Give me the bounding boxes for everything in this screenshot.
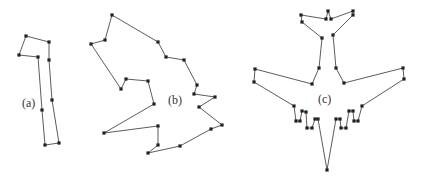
vertex-marker	[156, 124, 159, 127]
vertex-marker	[57, 141, 60, 144]
vertex-marker	[102, 131, 105, 134]
vertex-marker	[50, 98, 53, 101]
vertex-marker	[342, 81, 345, 84]
vertex-marker	[351, 9, 354, 12]
vertex-marker	[300, 20, 303, 23]
vertex-marker	[329, 17, 332, 20]
vertex-marker	[110, 13, 113, 16]
vertex-marker	[195, 83, 198, 86]
vertex-marker	[103, 38, 106, 41]
vertex-marker	[253, 67, 256, 70]
vertex-marker	[47, 58, 50, 61]
vertex-marker	[209, 127, 212, 130]
shape-a-label: (a)	[22, 96, 35, 110]
vertex-marker	[252, 80, 255, 83]
vertex-marker	[40, 108, 43, 111]
vertex-marker	[47, 40, 50, 43]
vertex-marker	[356, 119, 359, 122]
vertex-marker	[182, 58, 185, 61]
vertex-marker	[178, 144, 181, 147]
vertex-marker	[36, 55, 39, 58]
vertex-marker	[124, 77, 127, 80]
vertex-marker	[310, 126, 313, 129]
shape-c-vertices	[252, 9, 405, 171]
vertex-marker	[305, 126, 308, 129]
vertex-marker	[351, 13, 354, 16]
vertex-marker	[24, 34, 27, 37]
vertex-marker	[351, 109, 354, 112]
shape-b-outline	[91, 15, 222, 153]
vertex-marker	[339, 126, 342, 129]
vertex-marker	[326, 9, 329, 12]
vertex-marker	[316, 117, 319, 120]
vertex-marker	[43, 143, 46, 146]
vertex-marker	[313, 117, 316, 120]
shape-a-outline	[19, 36, 59, 145]
vertex-marker	[292, 104, 295, 107]
vertex-marker	[304, 110, 307, 113]
vertex-marker	[156, 143, 159, 146]
shape-c-airplane: (c)	[252, 9, 405, 171]
vertex-marker	[192, 92, 195, 95]
vertex-marker	[331, 33, 334, 36]
shape-a: (a)	[17, 34, 60, 146]
vertex-marker	[401, 66, 404, 69]
shape-b-label: (b)	[168, 93, 182, 107]
vertex-marker	[324, 17, 327, 20]
vertex-marker	[156, 40, 159, 43]
vertex-marker	[320, 36, 323, 39]
vertex-marker	[299, 13, 302, 16]
shape-contours-figure: (a) (b) (c)	[0, 0, 421, 179]
vertex-marker	[213, 95, 216, 98]
vertex-marker	[146, 79, 149, 82]
vertex-marker	[347, 109, 350, 112]
vertex-marker	[164, 55, 167, 58]
vertex-marker	[334, 66, 337, 69]
vertex-marker	[298, 119, 301, 122]
vertex-marker	[310, 82, 313, 85]
vertex-marker	[17, 53, 20, 56]
vertex-marker	[300, 109, 303, 112]
vertex-marker	[152, 102, 155, 105]
vertex-marker	[338, 117, 341, 120]
shape-b: (b)	[89, 13, 223, 154]
vertex-marker	[317, 66, 320, 69]
vertex-marker	[402, 77, 405, 80]
vertex-marker	[294, 119, 297, 122]
shape-c-outline	[254, 11, 404, 170]
vertex-marker	[197, 105, 200, 108]
vertex-marker	[334, 117, 337, 120]
vertex-marker	[89, 42, 92, 45]
shape-a-vertices	[17, 34, 60, 146]
vertex-marker	[360, 104, 363, 107]
vertex-marker	[344, 126, 347, 129]
vertex-marker	[352, 119, 355, 122]
vertex-marker	[146, 151, 149, 154]
vertex-marker	[119, 87, 122, 90]
vertex-marker	[325, 168, 328, 171]
shape-c-label: (c)	[318, 92, 331, 106]
vertex-marker	[220, 123, 223, 126]
